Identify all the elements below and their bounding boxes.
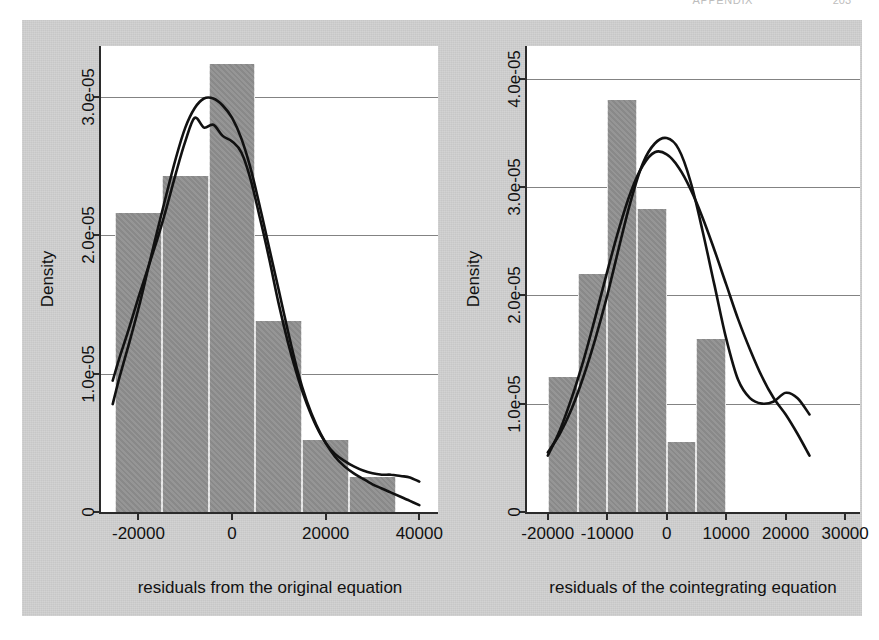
x-tick-label: 20000	[762, 524, 809, 544]
page-header: APPENDIX 203	[0, 0, 879, 12]
y-tick-label: 2.0e-05	[79, 207, 99, 265]
density-curve-normal-fit	[548, 151, 810, 455]
x-axis-title-right: residuals of the cointegrating equation	[549, 578, 836, 598]
figure-container: -200000200004000001.0e-052.0e-053.0e-05 …	[22, 20, 862, 616]
x-tick	[137, 514, 139, 520]
x-tick	[725, 514, 727, 520]
y-axis-line	[525, 46, 527, 514]
plot-area-left	[101, 46, 438, 512]
plot-area-right	[527, 46, 860, 512]
y-tick-label: 0	[505, 507, 525, 516]
density-curve-kernel-density	[113, 118, 420, 482]
x-tick	[666, 514, 668, 520]
y-axis-title-left: Density	[38, 251, 58, 308]
y-tick-label: 3.0e-05	[505, 158, 525, 216]
y-tick-label: 3.0e-05	[79, 68, 99, 126]
density-curve-normal-fit	[113, 97, 420, 505]
y-axis-title-right: Density	[464, 251, 484, 308]
x-tick-label: 30000	[821, 524, 868, 544]
y-tick-label: 1.0e-05	[505, 375, 525, 433]
page-header-title: APPENDIX	[693, 0, 753, 6]
x-axis-line	[527, 512, 860, 514]
x-tick-label: 0	[662, 524, 671, 544]
chart-right-residuals-cointegrating: -20000-10000010000200003000001.0e-052.0e…	[442, 20, 862, 616]
page-number: 203	[833, 0, 851, 6]
x-axis-title-left: residuals from the original equation	[138, 578, 403, 598]
y-tick-label: 0	[79, 507, 99, 516]
x-tick-label: -20000	[521, 524, 574, 544]
x-tick-label: -10000	[581, 524, 634, 544]
x-tick-label: 10000	[703, 524, 750, 544]
y-tick-label: 1.0e-05	[79, 345, 99, 403]
x-tick-label: 0	[227, 524, 236, 544]
x-tick	[785, 514, 787, 520]
x-axis-line	[101, 512, 438, 514]
density-curve-kernel-density	[548, 138, 810, 452]
x-tick	[418, 514, 420, 520]
y-tick-label: 4.0e-05	[505, 50, 525, 108]
y-tick-label: 2.0e-05	[505, 266, 525, 324]
x-tick-label: 20000	[302, 524, 349, 544]
x-tick	[547, 514, 549, 520]
y-axis-line	[99, 46, 101, 514]
chart-left-residuals-original: -200000200004000001.0e-052.0e-053.0e-05 …	[22, 20, 442, 616]
x-tick-label: -20000	[112, 524, 165, 544]
x-tick	[231, 514, 233, 520]
x-tick	[844, 514, 846, 520]
x-tick	[606, 514, 608, 520]
density-curves-left	[101, 46, 438, 512]
density-curves-right	[527, 46, 860, 512]
x-tick	[325, 514, 327, 520]
x-tick-label: 40000	[396, 524, 443, 544]
